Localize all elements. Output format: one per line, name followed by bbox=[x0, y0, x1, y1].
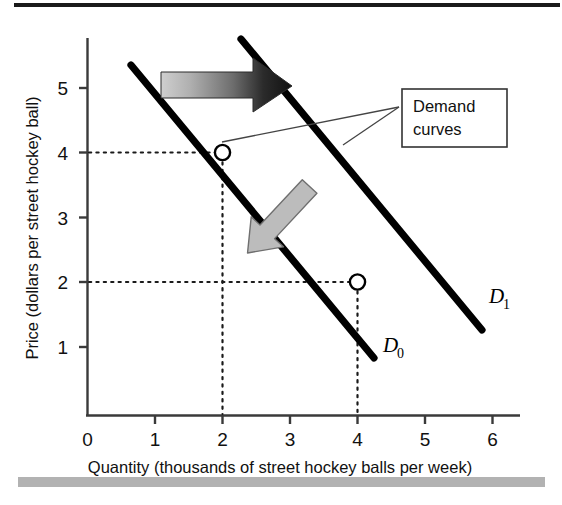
x-tick-label-2: 2 bbox=[217, 429, 228, 450]
point-marker-4-2[interactable] bbox=[350, 274, 365, 289]
y-axis-title: Price (dollars per street hockey ball) bbox=[23, 96, 41, 359]
x-tick-label-0: 0 bbox=[82, 429, 93, 450]
bottom-accent-bar bbox=[18, 477, 545, 487]
x-axis-title: Quantity (thousands of street hockey bal… bbox=[88, 458, 472, 476]
y-tick-label-2: 2 bbox=[57, 272, 68, 293]
x-tick-label-6: 6 bbox=[487, 429, 498, 450]
curve-label-d0-letter: D bbox=[382, 333, 398, 357]
y-tick-label-1: 1 bbox=[57, 337, 68, 358]
y-tick-label-3: 3 bbox=[57, 208, 68, 229]
curve-label-d1-letter: D bbox=[488, 284, 504, 308]
demand-curve-figure: 5 4 3 2 1 0 1 2 3 4 5 6 Price (dollars p… bbox=[0, 0, 562, 505]
point-marker-2-4[interactable] bbox=[215, 145, 230, 160]
y-tick-label-4: 4 bbox=[57, 143, 68, 164]
callout-line-2: curves bbox=[413, 120, 462, 138]
x-tick-label-5: 5 bbox=[420, 429, 431, 450]
y-tick-label-5: 5 bbox=[57, 78, 68, 99]
callout-line-1: Demand bbox=[413, 97, 475, 115]
curve-label-d1-subscript: 1 bbox=[503, 297, 510, 312]
curve-label-d0-subscript: 0 bbox=[397, 346, 404, 361]
demand-curves-callout[interactable]: Demand curves bbox=[402, 89, 507, 147]
x-tick-label-3: 3 bbox=[285, 429, 296, 450]
x-tick-label-1: 1 bbox=[150, 429, 161, 450]
x-tick-label-4: 4 bbox=[352, 429, 363, 450]
top-rule bbox=[14, 3, 560, 7]
